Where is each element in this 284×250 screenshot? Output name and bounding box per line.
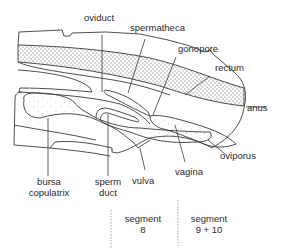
label-oviduct: oviduct [84, 12, 114, 23]
label-sperm-duct: sperm duct [92, 176, 124, 198]
label-anus: anus [247, 102, 268, 113]
label-spermatheca: spermatheca [130, 22, 185, 33]
label-vulva: vulva [132, 175, 154, 186]
label-bursa-copulatrix: bursa copulatrix [24, 176, 74, 198]
label-rectum: rectum [215, 62, 244, 73]
reproductive-tract-diagram: oviduct spermatheca gonopore rectum anus… [0, 0, 284, 250]
segment-9-10-label: segment 9 + 10 [184, 213, 234, 235]
vulva-leader [140, 148, 145, 170]
label-vagina: vagina [175, 166, 203, 177]
segment-8-label: segment 8 [118, 213, 168, 235]
label-gonopore: gonopore [178, 43, 218, 54]
label-oviporus: oviporus [220, 150, 256, 161]
